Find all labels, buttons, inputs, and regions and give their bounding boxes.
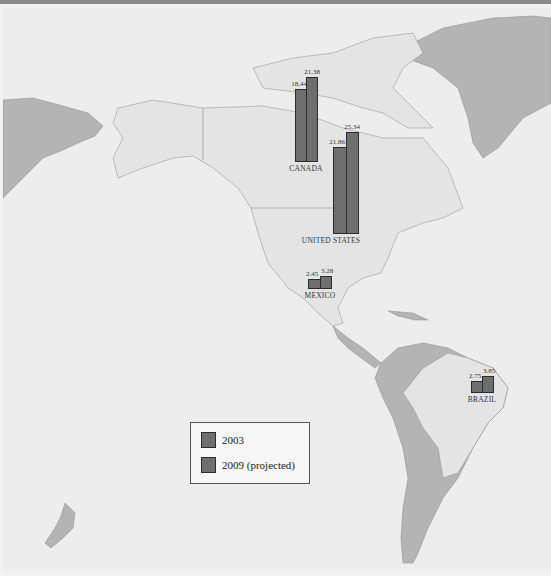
land-masses: [3, 8, 551, 571]
legend-label-2003: 2003: [222, 434, 244, 446]
value-brazil-2009: 3.85: [483, 367, 495, 375]
legend-swatch-2003: [201, 432, 216, 448]
legend: 2003 2009 (projected): [190, 422, 310, 484]
legend-item-2003: 2003: [201, 432, 244, 448]
legend-item-2009: 2009 (projected): [201, 457, 295, 473]
value-mexico-2003: 2.45: [306, 270, 318, 278]
map-area: [3, 8, 551, 571]
bar-mexico-2009: [320, 276, 332, 289]
bar-brazil-2009: [482, 376, 494, 393]
value-us-2009: 25.34: [344, 123, 360, 131]
country-label-mexico: MEXICO: [305, 291, 336, 300]
legend-swatch-2009: [201, 457, 216, 473]
country-label-united-states: UNITED STATES: [302, 236, 360, 245]
bar-canada-2009: [306, 77, 318, 162]
country-label-brazil: BRAZIL: [468, 395, 496, 404]
bar-us-2003: [333, 147, 347, 234]
value-canada-2003: 18.44: [291, 80, 307, 88]
legend-label-2009: 2009 (projected): [222, 459, 295, 471]
top-border: [0, 0, 551, 4]
country-label-canada: CANADA: [289, 164, 322, 173]
value-us-2003: 21.86: [329, 138, 345, 146]
value-canada-2009: 21.38: [304, 68, 320, 76]
value-mexico-2009: 3.28: [321, 267, 333, 275]
bar-us-2009: [346, 132, 359, 234]
value-brazil-2003: 2.75: [469, 372, 481, 380]
